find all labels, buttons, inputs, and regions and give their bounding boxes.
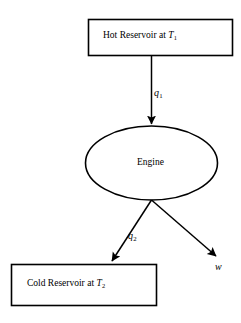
- work-out-label: w: [215, 262, 222, 272]
- hot-reservoir-text: Hot Reservoir at: [103, 30, 168, 40]
- heat-out-label: q2: [128, 231, 137, 243]
- diagram-canvas: [0, 0, 241, 323]
- work-out-symbol: w: [215, 261, 222, 272]
- hot-reservoir-subscript: 1: [173, 34, 176, 41]
- heat-out-subscript: 2: [133, 235, 137, 242]
- heat-engine-diagram: Hot Reservoir at T1 Engine Cold Reservoi…: [0, 0, 241, 323]
- heat-in-subscript: 1: [159, 92, 163, 99]
- cold-reservoir-subscript: 2: [102, 282, 105, 289]
- cold-reservoir-symbol: T: [96, 278, 101, 288]
- cold-reservoir-text: Cold Reservoir at: [27, 278, 96, 288]
- heat-in-label: q1: [154, 88, 163, 100]
- work-out-arrow: [152, 200, 217, 256]
- engine-label: Engine: [137, 158, 164, 168]
- cold-reservoir-label: Cold Reservoir at T2: [27, 279, 105, 289]
- hot-reservoir-label: Hot Reservoir at T1: [103, 31, 177, 41]
